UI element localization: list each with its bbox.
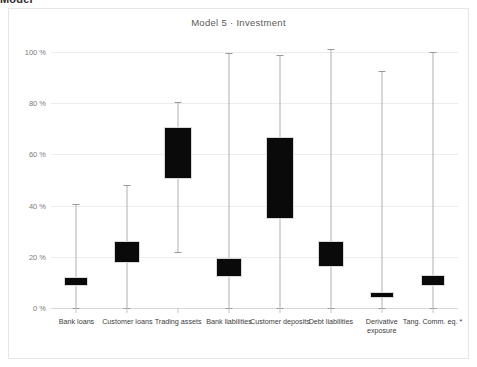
x-axis-tick	[127, 308, 128, 313]
whisker-cap-high	[175, 102, 182, 103]
box-rect	[370, 292, 394, 298]
whisker-cap-high	[378, 71, 385, 72]
whisker-cap-high	[429, 52, 436, 53]
x-axis-tick	[178, 308, 179, 313]
whisker-cap-high	[276, 55, 283, 56]
whisker-cap-high	[327, 49, 334, 50]
box-rect	[164, 127, 192, 179]
x-axis-tick	[229, 308, 230, 313]
box-whisker-series: Bank loansCustomer loansTrading assetsBa…	[51, 9, 458, 360]
whisker-cap-high	[124, 185, 131, 186]
box-rect	[266, 137, 294, 219]
y-axis-tick-label: 0 %	[0, 304, 46, 313]
box-whisker-item[interactable]: Tang. Comm. eq. *	[407, 9, 458, 360]
x-axis-tick	[432, 308, 433, 313]
clipped-header-text: Model	[0, 0, 33, 4]
chart-frame: Model 5 · Investment 0 %20 %40 %60 %80 %…	[8, 8, 469, 359]
box-whisker-item[interactable]: Bank loans	[51, 9, 102, 360]
whisker-line	[76, 204, 77, 308]
y-axis-tick-label: 100 %	[0, 48, 46, 57]
box-whisker-item[interactable]: Customer deposits	[255, 9, 306, 360]
box-rect	[216, 258, 242, 277]
whisker-cap-high	[226, 53, 233, 54]
y-axis-tick-label: 60 %	[0, 150, 46, 159]
y-axis-tick-label: 80 %	[0, 99, 46, 108]
whisker-line	[381, 71, 382, 308]
box-whisker-item[interactable]: Bank liabilities	[204, 9, 255, 360]
box-rect	[64, 277, 88, 286]
y-axis-tick-label: 20 %	[0, 253, 46, 262]
x-axis-tick	[76, 308, 77, 313]
whisker-line	[330, 49, 331, 308]
x-axis-tick	[279, 308, 280, 313]
box-whisker-item[interactable]: Trading assets	[153, 9, 204, 360]
box-rect	[421, 275, 445, 286]
box-whisker-item[interactable]: Debt liabilities	[305, 9, 356, 360]
whisker-cap-high	[73, 204, 80, 205]
x-axis-tick	[330, 308, 331, 313]
plot-area: 0 %20 %40 %60 %80 %100 % Bank loansCusto…	[9, 9, 470, 360]
x-axis-tick	[381, 308, 382, 313]
x-axis-category-label: Tang. Comm. eq. *	[402, 317, 464, 326]
box-rect	[114, 241, 140, 263]
y-axis-tick-label: 40 %	[0, 202, 46, 211]
whisker-line	[432, 52, 433, 308]
box-whisker-item[interactable]: Derivative exposure	[356, 9, 407, 360]
box-rect	[318, 241, 344, 267]
box-whisker-item[interactable]: Customer loans	[102, 9, 153, 360]
whisker-cap-low	[175, 252, 182, 253]
